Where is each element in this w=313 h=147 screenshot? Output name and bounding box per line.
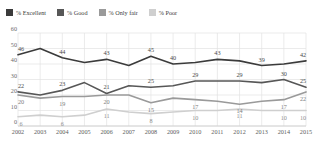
data-point-label: 10 <box>281 114 287 120</box>
data-point-label: 6 <box>19 121 22 127</box>
x-axis-tick: 2011 <box>211 128 223 136</box>
data-point-label: 44 <box>59 49 65 55</box>
x-axis-tick: 2004 <box>56 128 68 136</box>
x-axis-tick: 2009 <box>167 128 179 136</box>
data-point-label: 25 <box>300 78 306 84</box>
line-chart-svg <box>0 0 313 147</box>
data-point-label: 11 <box>237 113 243 119</box>
x-axis-tick: 2010 <box>189 128 201 136</box>
x-axis-tick: 2002 <box>12 128 24 136</box>
data-point-label: 15 <box>148 107 154 113</box>
x-axis-tick: 2005 <box>78 128 90 136</box>
data-point-label: 10 <box>300 114 306 120</box>
data-point-label: 20 <box>18 99 24 105</box>
data-point-label: 30 <box>281 70 287 76</box>
data-point-label: 21 <box>104 84 110 90</box>
x-axis-tick: 2006 <box>100 128 112 136</box>
data-point-label: 11 <box>104 113 110 119</box>
data-point-label: 22 <box>18 83 24 89</box>
x-axis-tick: 2012 <box>233 128 245 136</box>
data-point-label: 20 <box>104 99 110 105</box>
data-point-label: 29 <box>236 72 242 78</box>
x-axis-labels: 2002200320042005200620072008200920102011… <box>18 128 306 142</box>
data-point-label: 29 <box>192 72 198 78</box>
data-point-label: 45 <box>148 47 154 53</box>
series-line <box>18 109 306 117</box>
data-point-label: 46 <box>18 46 24 52</box>
data-point-label: 22 <box>300 96 306 102</box>
x-axis-tick: 2003 <box>34 128 46 136</box>
data-point-label: 39 <box>259 56 265 62</box>
data-point-label: 43 <box>214 50 220 56</box>
x-axis-tick: 2008 <box>145 128 157 136</box>
data-point-label: 19 <box>59 100 65 106</box>
data-point-label: 10 <box>192 114 198 120</box>
data-point-label: 40 <box>170 55 176 61</box>
data-point-label: 25 <box>148 78 154 84</box>
x-axis-tick: 2007 <box>123 128 135 136</box>
x-axis-tick: 2014 <box>278 128 290 136</box>
data-point-label: 17 <box>192 104 198 110</box>
x-axis-tick: 2013 <box>256 128 268 136</box>
data-point-label: 17 <box>281 104 287 110</box>
data-point-label: 43 <box>104 50 110 56</box>
data-point-label: 23 <box>59 81 65 87</box>
chart-root: % Excellent% Good% Only fair% Poor 01020… <box>0 0 313 147</box>
x-axis-tick: 2015 <box>300 128 312 136</box>
data-point-label: 6 <box>61 121 64 127</box>
chart-canvas <box>0 0 313 147</box>
data-point-label: 42 <box>300 52 306 58</box>
data-point-label: 8 <box>149 117 152 123</box>
